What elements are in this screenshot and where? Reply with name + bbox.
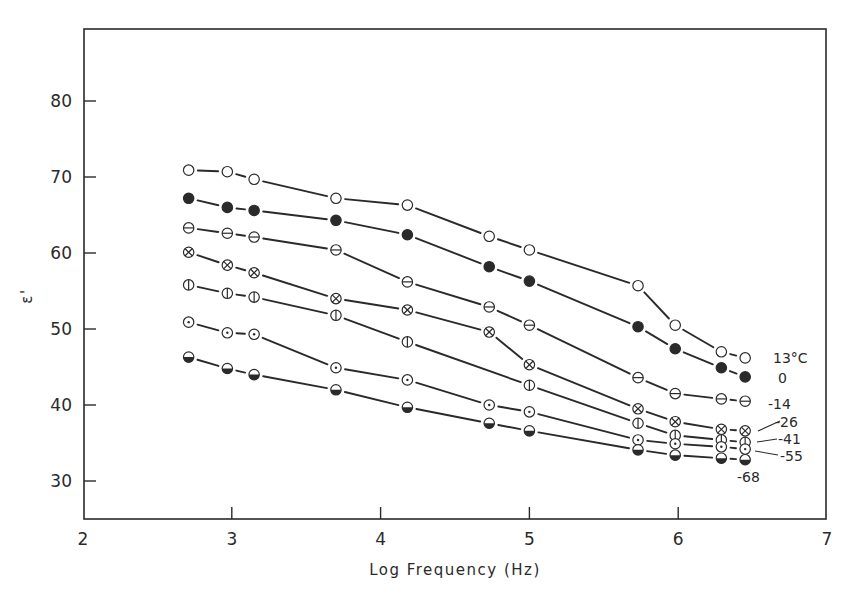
curve-segment xyxy=(345,369,398,378)
series-label: -14 xyxy=(768,396,791,412)
curve-segment xyxy=(644,292,669,318)
data-point-marker xyxy=(402,375,412,385)
curve-segment xyxy=(416,208,481,233)
x-tick-label: 7 xyxy=(822,529,833,549)
data-point-marker xyxy=(249,232,259,242)
data-point-marker xyxy=(249,369,259,379)
data-point-marker xyxy=(524,426,534,436)
data-point-marker xyxy=(740,396,750,406)
series-label: -41 xyxy=(778,431,801,447)
data-point-marker xyxy=(484,400,494,410)
data-point-marker xyxy=(222,363,232,373)
curve-segment xyxy=(236,371,245,373)
curve-segment xyxy=(263,376,327,388)
data-point-marker xyxy=(484,302,494,312)
curve-segment xyxy=(538,285,630,323)
y-tick-label: 80 xyxy=(50,91,72,111)
data-point-marker xyxy=(670,388,680,398)
data-point-marker xyxy=(183,165,193,175)
y-tick-label: 30 xyxy=(50,471,72,491)
curve-segment xyxy=(236,235,245,236)
curve-segment xyxy=(684,444,712,446)
curve-segment xyxy=(345,319,399,339)
curve-segment xyxy=(498,239,521,247)
curve-segment xyxy=(684,352,713,364)
curve-segment xyxy=(416,345,521,382)
curve-segment xyxy=(731,400,736,401)
data-point-marker xyxy=(716,442,726,452)
data-point-marker xyxy=(222,202,232,212)
curve-segment xyxy=(684,436,712,439)
data-point-marker xyxy=(524,360,534,370)
data-point-marker xyxy=(633,322,643,332)
data-point-marker xyxy=(524,245,534,255)
data-point-marker xyxy=(740,426,750,436)
x-tick-label: 3 xyxy=(226,529,237,549)
curve-segment xyxy=(684,423,712,428)
label-leader-line xyxy=(755,451,778,455)
data-point-marker xyxy=(331,245,341,255)
data-point-marker xyxy=(249,292,259,302)
data-point-marker xyxy=(183,193,193,203)
curve-segment xyxy=(498,270,521,278)
data-point-marker xyxy=(183,247,193,257)
curve-segment xyxy=(538,368,630,405)
curve-segment xyxy=(263,299,327,313)
data-point-marker xyxy=(331,385,341,395)
data-point-marker xyxy=(331,293,341,303)
data-point-marker xyxy=(716,424,726,434)
curve-segment xyxy=(647,441,666,443)
data-point-marker xyxy=(222,328,232,338)
data-point-marker xyxy=(222,228,232,238)
data-point-marker xyxy=(183,280,193,290)
data-point-marker xyxy=(484,327,494,337)
data-point-marker xyxy=(222,288,232,298)
data-point-marker xyxy=(633,404,643,414)
curve-segment xyxy=(647,426,667,432)
data-point-marker xyxy=(402,337,412,347)
y-tick-label: 50 xyxy=(50,319,72,339)
data-point-marker xyxy=(740,444,750,454)
x-tick-label: 6 xyxy=(673,529,684,549)
data-point-marker xyxy=(524,320,534,330)
curve-segment xyxy=(263,276,327,296)
data-point-marker xyxy=(402,277,412,287)
data-point-marker xyxy=(402,402,412,412)
curve-segment xyxy=(198,287,219,291)
data-point-marker xyxy=(183,352,193,362)
curve-segment xyxy=(344,254,399,278)
curve-segment xyxy=(731,448,736,449)
data-point-marker xyxy=(633,372,643,382)
curve-segment xyxy=(684,456,712,458)
curve-segment xyxy=(198,229,218,232)
curve-segment xyxy=(646,381,666,390)
curve-segment xyxy=(263,238,327,248)
data-point-marker xyxy=(524,380,534,390)
data-point-marker xyxy=(670,344,680,354)
curve-segment xyxy=(498,425,520,429)
curve-segment xyxy=(496,338,522,359)
x-tick-label: 5 xyxy=(524,529,535,549)
data-point-marker xyxy=(402,305,412,315)
curve-segment xyxy=(538,329,630,373)
data-point-marker xyxy=(402,230,412,240)
data-point-marker xyxy=(331,215,341,225)
data-point-marker xyxy=(249,329,259,339)
curve-segment xyxy=(538,388,629,420)
curve-segment xyxy=(197,360,218,366)
x-tick-label: 4 xyxy=(375,529,386,549)
curve-segment xyxy=(236,208,245,209)
data-point-marker xyxy=(331,363,341,373)
curve-segment xyxy=(646,331,667,344)
curve-segment xyxy=(647,412,667,419)
data-point-marker xyxy=(633,435,643,445)
curve-segment xyxy=(730,371,737,374)
data-point-marker xyxy=(670,320,680,330)
y-axis-title: ε' xyxy=(18,288,36,303)
data-point-marker xyxy=(484,418,494,428)
x-tick-label: 2 xyxy=(78,529,89,549)
series-curves xyxy=(197,171,736,460)
data-point-marker xyxy=(633,280,643,290)
curve-segment xyxy=(263,212,327,220)
curve-segment xyxy=(730,354,736,356)
